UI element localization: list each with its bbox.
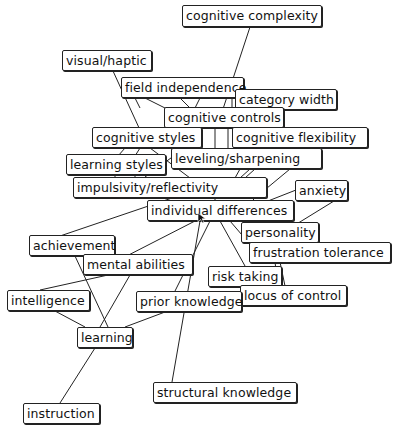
concept-link (100, 275, 130, 327)
concept-label: learning styles (70, 157, 163, 172)
concept-link (40, 275, 108, 290)
concept-node-learning-styles[interactable]: learning styles (66, 154, 166, 175)
concept-map-canvas: cognitive complexityvisual/hapticfield i… (0, 0, 398, 431)
concept-label: intelligence (11, 293, 85, 308)
concept-label: frustration tolerance (253, 245, 384, 260)
concept-node-individual-differences[interactable]: individual differences (147, 200, 294, 221)
concept-node-learning[interactable]: learning (77, 327, 133, 348)
concept-label: cognitive styles (96, 130, 195, 145)
concept-node-anxiety[interactable]: anxiety (295, 180, 348, 201)
concept-link (125, 312, 165, 327)
concept-node-instruction[interactable]: instruction (23, 403, 100, 424)
concept-label: leveling/sharpening (175, 151, 300, 166)
concept-node-achievement[interactable]: achievement (29, 235, 115, 256)
concept-label: field independence (125, 80, 246, 95)
concept-node-structural-knowledge[interactable]: structural knowledge (153, 382, 297, 403)
concept-node-cognitive-flexibility[interactable]: cognitive flexibility (232, 127, 368, 148)
concept-node-cognitive-controls[interactable]: cognitive controls (164, 107, 284, 128)
concept-node-leveling-sharpening[interactable]: leveling/sharpening (171, 148, 322, 169)
concept-node-field-independence[interactable]: field independence (121, 77, 244, 98)
concept-label: visual/haptic (66, 53, 147, 68)
concept-label: impulsivity/reflectivity (77, 180, 218, 195)
concept-node-intelligence[interactable]: intelligence (7, 290, 90, 311)
concept-label: individual differences (151, 203, 287, 218)
concept-node-personality[interactable]: personality (241, 222, 319, 243)
concept-label: personality (245, 225, 316, 240)
concept-node-frustration-tolerance[interactable]: frustration tolerance (249, 242, 391, 263)
mouse-pointer-icon (197, 212, 207, 224)
concept-link (55, 311, 85, 327)
concept-label: learning (81, 330, 133, 345)
concept-node-impulsivity-reflectivity[interactable]: impulsivity/reflectivity (73, 177, 267, 198)
concept-label: risk taking (212, 269, 279, 284)
concept-link (135, 98, 140, 108)
concept-label: mental abilities (87, 257, 185, 272)
concept-label: cognitive controls (168, 110, 281, 125)
concept-node-risk-taking[interactable]: risk taking (208, 266, 282, 287)
concept-label: structural knowledge (157, 385, 291, 400)
concept-label: locus of control (244, 288, 341, 303)
concept-label: cognitive flexibility (236, 130, 356, 145)
concept-label: category width (239, 92, 334, 107)
concept-node-mental-abilities[interactable]: mental abilities (83, 254, 193, 275)
concept-label: anxiety (299, 183, 346, 198)
concept-label: prior knowledge (140, 294, 243, 309)
concept-label: instruction (27, 406, 95, 421)
concept-node-prior-knowledge[interactable]: prior knowledge (136, 291, 242, 312)
concept-node-locus-of-control[interactable]: locus of control (240, 285, 347, 306)
concept-label: achievement (33, 238, 116, 253)
concept-node-visual-haptic[interactable]: visual/haptic (62, 50, 152, 71)
concept-label: cognitive complexity (186, 8, 318, 23)
concept-link (60, 348, 95, 403)
concept-node-cognitive-complexity[interactable]: cognitive complexity (182, 5, 322, 27)
concept-node-cognitive-styles[interactable]: cognitive styles (92, 127, 202, 148)
concept-link (145, 98, 165, 108)
